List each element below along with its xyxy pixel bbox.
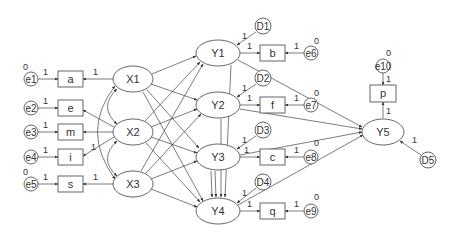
svg-text:1: 1 [43,145,48,155]
observed-e: e [58,100,83,116]
svg-text:1: 1 [247,93,252,103]
observed-s: s [58,176,83,192]
error-e10: e10 0 [375,48,392,73]
svg-text:e1: e1 [25,74,37,85]
svg-text:1: 1 [242,188,247,198]
svg-text:1: 1 [294,41,299,51]
disturbance-d5: D5 [420,152,436,168]
observed-a: a [58,71,83,87]
observed-q: q [260,203,285,219]
latent-y2: Y2 [196,92,240,118]
svg-text:Y1: Y1 [211,47,224,59]
error-e5: e5 0 [23,167,38,191]
disturbance-d2: D2 [255,70,271,86]
svg-text:e9: e9 [305,206,317,217]
latent-x3: X3 [113,171,153,197]
svg-text:p: p [380,87,386,99]
latent-x2: X2 [113,119,153,145]
svg-text:e6: e6 [305,48,317,59]
svg-text:1: 1 [294,93,299,103]
svg-text:D3: D3 [257,125,270,136]
svg-text:e: e [67,102,73,114]
svg-text:0: 0 [314,192,319,202]
svg-text:s: s [68,178,74,190]
svg-text:e10: e10 [375,61,392,72]
svg-text:Y5: Y5 [376,126,389,138]
svg-text:1: 1 [91,142,96,152]
svg-text:D5: D5 [422,155,435,166]
svg-text:1: 1 [294,145,299,155]
svg-text:1: 1 [242,83,247,93]
svg-text:X1: X1 [126,73,139,85]
svg-text:0: 0 [386,48,391,58]
svg-text:1: 1 [242,31,247,41]
error-e4: e4 [24,150,38,164]
svg-text:Y2: Y2 [211,99,224,111]
svg-text:X3: X3 [126,178,139,190]
svg-text:e3: e3 [25,127,37,138]
svg-text:a: a [67,73,74,85]
disturbance-d1: D1 [255,18,271,34]
error-e1: e1 0 [23,62,38,86]
svg-text:1: 1 [43,67,48,77]
svg-text:q: q [269,205,275,217]
svg-text:1: 1 [93,172,98,182]
observed-p: p [370,85,396,102]
sem-path-diagram: 1 1 1 1 1 1 1 1 1 1 1 1 1 1 1 1 1 1 1 1 … [0,0,464,238]
observed-m: m [58,124,83,140]
svg-text:1: 1 [247,199,252,209]
disturbance-d3: D3 [255,122,271,138]
observed-f: f [260,97,285,113]
svg-text:0: 0 [314,138,319,148]
svg-text:1: 1 [43,172,48,182]
error-e8: e8 0 [304,138,319,164]
svg-text:0: 0 [314,88,319,98]
svg-text:0: 0 [314,36,319,46]
error-e7: e7 0 [304,88,319,112]
svg-text:m: m [66,126,75,138]
svg-text:i: i [69,151,71,163]
svg-text:e8: e8 [305,152,317,163]
svg-text:Y3: Y3 [211,151,224,163]
svg-text:1: 1 [244,145,249,155]
svg-text:e7: e7 [305,100,317,111]
latent-y4: Y4 [196,198,240,224]
svg-text:e4: e4 [25,152,37,163]
svg-text:D4: D4 [257,177,270,188]
error-e3: e3 [24,125,38,139]
svg-text:0: 0 [23,62,28,72]
svg-text:e5: e5 [25,179,37,190]
svg-text:1: 1 [93,67,98,77]
svg-text:Y4: Y4 [211,205,224,217]
svg-text:D1: D1 [257,21,270,32]
observed-i: i [58,149,83,165]
svg-text:b: b [269,47,275,59]
error-e6: e6 0 [304,36,319,60]
svg-text:1: 1 [247,41,252,51]
svg-text:0: 0 [23,167,28,177]
observed-b: b [260,45,285,61]
svg-text:1: 1 [43,96,48,106]
latent-y5: Y5 [362,119,404,145]
svg-text:e2: e2 [25,103,37,114]
svg-text:1: 1 [43,120,48,130]
svg-text:1: 1 [294,199,299,209]
svg-text:1: 1 [386,106,391,116]
disturbance-d4: D4 [255,174,271,190]
svg-text:1: 1 [242,135,247,145]
svg-text:1: 1 [412,135,417,145]
svg-text:1: 1 [386,74,391,84]
error-e2: e2 [24,101,38,115]
latent-y1: Y1 [196,40,240,66]
svg-text:X2: X2 [126,126,139,138]
observed-c: c [260,149,285,165]
svg-text:D2: D2 [257,73,270,84]
error-e9: e9 0 [304,192,319,218]
latent-x1: X1 [113,66,153,92]
svg-text:c: c [270,151,276,163]
latent-y3: Y3 [196,144,240,170]
